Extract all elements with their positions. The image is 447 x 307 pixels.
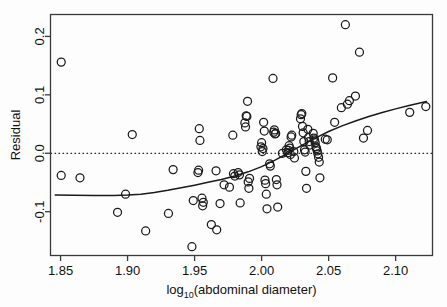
data-point bbox=[274, 203, 282, 211]
scatter-points-group bbox=[57, 21, 430, 251]
data-point bbox=[229, 131, 237, 139]
data-point bbox=[260, 127, 268, 135]
data-point bbox=[341, 21, 349, 29]
x-axis-title-rest: (abdominal diameter) bbox=[194, 282, 317, 297]
data-point bbox=[355, 48, 363, 56]
data-point bbox=[122, 190, 130, 198]
data-point bbox=[359, 134, 367, 142]
x-tick-label: 2.05 bbox=[316, 263, 341, 278]
data-point bbox=[363, 126, 371, 134]
data-point bbox=[422, 103, 430, 111]
data-point bbox=[406, 108, 414, 116]
data-point bbox=[337, 104, 345, 112]
data-point bbox=[273, 181, 281, 189]
data-point bbox=[216, 200, 224, 208]
data-point bbox=[57, 58, 65, 66]
x-tick-label: 1.85 bbox=[48, 263, 73, 278]
y-axis-title: Residual bbox=[8, 110, 23, 161]
data-point bbox=[262, 190, 270, 198]
x-axis-title-base: log bbox=[166, 282, 183, 297]
data-point bbox=[263, 205, 271, 213]
data-point bbox=[316, 174, 324, 182]
plot-frame bbox=[51, 15, 433, 256]
data-point bbox=[212, 167, 220, 175]
x-tick-label: 1.90 bbox=[115, 263, 140, 278]
x-tick-label: 2.00 bbox=[249, 263, 274, 278]
data-point bbox=[142, 227, 150, 235]
data-point bbox=[269, 74, 277, 82]
residual-scatter-plot-figure: 1.851.901.952.002.052.10-0.10.00.10.2Res… bbox=[0, 0, 447, 307]
y-tick-label: 0.2 bbox=[32, 27, 47, 45]
data-point bbox=[114, 208, 122, 216]
data-point bbox=[128, 131, 136, 139]
data-point bbox=[76, 174, 84, 182]
data-point bbox=[260, 118, 268, 126]
plot-panel bbox=[51, 21, 433, 251]
x-axis-title: log10(abdominal diameter) bbox=[166, 282, 316, 300]
x-axis-title-subscript: 10 bbox=[184, 290, 194, 300]
y-tick-label: -0.1 bbox=[32, 200, 47, 222]
data-point bbox=[195, 125, 203, 133]
plot-canvas: 1.851.901.952.002.052.10-0.10.00.10.2Res… bbox=[0, 0, 447, 307]
data-point bbox=[351, 92, 359, 100]
data-point bbox=[213, 226, 221, 234]
data-point bbox=[244, 97, 252, 105]
x-tick-label: 2.10 bbox=[383, 263, 408, 278]
data-point bbox=[57, 171, 65, 179]
y-tick-label: 0.0 bbox=[32, 144, 47, 162]
data-point bbox=[169, 166, 177, 174]
data-point bbox=[236, 199, 244, 207]
data-point bbox=[189, 197, 197, 205]
data-point bbox=[164, 209, 172, 217]
y-tick-label: 0.1 bbox=[32, 86, 47, 104]
data-point bbox=[302, 167, 310, 175]
data-point bbox=[315, 158, 323, 166]
loess-smooth-line bbox=[55, 102, 426, 196]
data-point bbox=[303, 184, 311, 192]
data-point bbox=[331, 118, 339, 126]
data-point bbox=[188, 243, 196, 251]
x-tick-label: 1.95 bbox=[182, 263, 207, 278]
data-point bbox=[329, 74, 337, 82]
data-point bbox=[196, 136, 204, 144]
